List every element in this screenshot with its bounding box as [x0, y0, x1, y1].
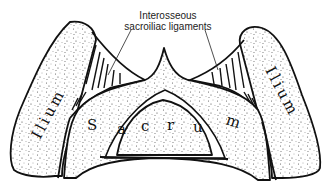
sacrum-letter-c: c [141, 117, 149, 135]
sacrum-letter-s: S [87, 116, 97, 134]
leader-line-right [205, 30, 218, 70]
ligament-label-line2: sacroiliac ligaments [124, 21, 211, 32]
ligament-label-line1: Interosseous [139, 10, 196, 21]
sacroiliac-diagram: Interosseous sacroiliac ligaments Ilium … [0, 0, 329, 193]
sacrum-letter-r: r [167, 116, 175, 134]
sacrum-letter-u: u [193, 118, 203, 136]
sacrum-letter-a: a [117, 120, 126, 138]
